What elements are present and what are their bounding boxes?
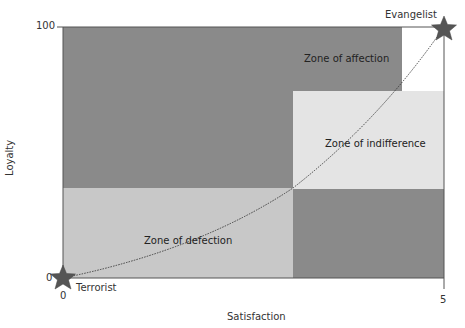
terrorist-label: Terrorist (76, 282, 117, 293)
y-axis-label: Loyalty (4, 140, 15, 176)
diagram: 100 0 0 5 Satisfaction Loyalty Zone of a… (0, 0, 465, 328)
diagram-canvas (0, 0, 465, 328)
zone-indifference-label: Zone of indifference (325, 138, 426, 149)
dark-region-bottom-right (293, 189, 444, 278)
dark-region-top-left (63, 27, 293, 188)
y-tick-min: 0 (46, 272, 52, 283)
x-tick-max: 5 (440, 294, 446, 305)
x-axis-label: Satisfaction (227, 311, 286, 322)
zone-affection-label: Zone of affection (304, 53, 389, 64)
zone-defection-region (63, 188, 293, 278)
y-tick-max: 100 (36, 20, 55, 31)
x-tick-min: 0 (60, 290, 66, 301)
evangelist-label: Evangelist (385, 9, 437, 20)
zone-defection-label: Zone of defection (144, 235, 232, 246)
